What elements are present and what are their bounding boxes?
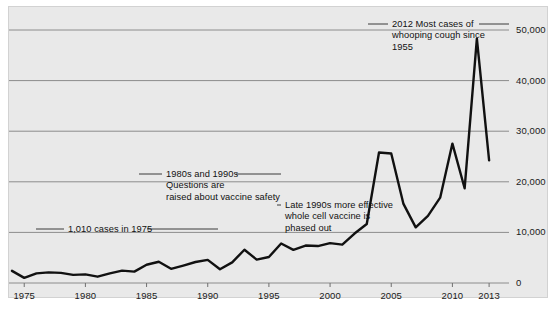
annot-1975: 1,010 cases in 1975 <box>68 224 152 235</box>
x-axis-label-1990: 1990 <box>197 291 219 301</box>
y-axis-label-50000: 50,000 <box>516 25 546 35</box>
gridlines-group <box>9 30 509 283</box>
x-axis-label-2005: 2005 <box>380 291 402 301</box>
y-axis-label-40000: 40,000 <box>516 76 546 86</box>
x-axis-label-2010: 2010 <box>442 291 464 301</box>
y-axis-label-20000: 20,000 <box>516 177 546 187</box>
annot-1980s-1990s: 1980s and 1990s Questions are raised abo… <box>166 169 280 203</box>
x-tick-marks-group <box>24 283 489 287</box>
annot-2012: 2012 Most cases of whooping cough since … <box>392 19 485 53</box>
x-axis-label-1980: 1980 <box>75 291 97 301</box>
data-line-series <box>12 39 489 278</box>
y-axis-label-30000: 30,000 <box>516 126 546 136</box>
y-axis-label-0: 0 <box>516 278 521 288</box>
x-axis-label-2013: 2013 <box>478 291 500 301</box>
chart-figure: 010,00020,00030,00040,00050,000 19751980… <box>0 0 558 317</box>
x-axis-label-2000: 2000 <box>319 291 341 301</box>
y-axis-label-10000: 10,000 <box>516 227 546 237</box>
x-axis-label-1995: 1995 <box>258 291 280 301</box>
annot-late-1990s: Late 1990s more effective whole cell vac… <box>285 200 393 234</box>
x-axis-label-1985: 1985 <box>136 291 158 301</box>
x-axis-label-1975: 1975 <box>13 291 35 301</box>
